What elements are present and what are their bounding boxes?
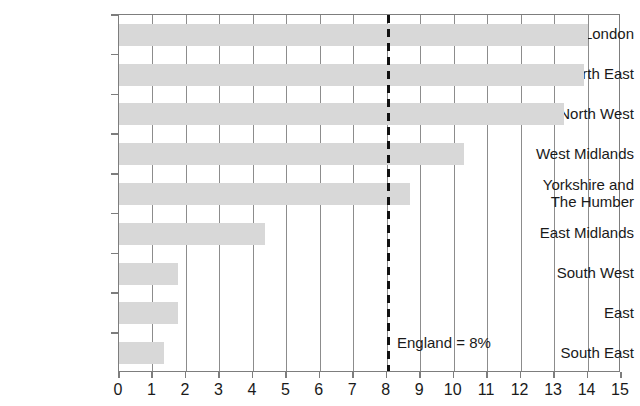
x-axis-label: 14 bbox=[572, 380, 602, 400]
bar bbox=[119, 24, 588, 46]
y-axis-tick bbox=[111, 253, 118, 255]
x-axis-label: 11 bbox=[471, 380, 501, 400]
category-label: East bbox=[522, 304, 640, 321]
y-axis-tick bbox=[111, 173, 118, 175]
bar bbox=[119, 342, 164, 364]
y-axis-tick bbox=[111, 292, 118, 294]
y-axis-tick bbox=[111, 332, 118, 334]
x-axis-tick bbox=[252, 372, 254, 378]
x-axis-tick bbox=[587, 372, 589, 378]
bar bbox=[119, 263, 178, 285]
y-axis-tick bbox=[111, 54, 118, 56]
x-axis-tick bbox=[419, 372, 421, 378]
x-axis-tick bbox=[520, 372, 522, 378]
x-axis-label: 8 bbox=[371, 380, 401, 400]
x-axis-tick bbox=[486, 372, 488, 378]
x-axis-label: 10 bbox=[438, 380, 468, 400]
x-axis-tick bbox=[620, 372, 622, 378]
y-axis-tick bbox=[111, 133, 118, 135]
bar bbox=[119, 64, 584, 86]
bar bbox=[119, 183, 410, 205]
x-axis-label: 9 bbox=[404, 380, 434, 400]
category-label: Yorkshire and The Humber bbox=[522, 176, 640, 210]
category-label: South West bbox=[522, 264, 640, 281]
x-axis-label: 5 bbox=[270, 380, 300, 400]
x-axis-tick bbox=[151, 372, 153, 378]
x-axis-tick bbox=[285, 372, 287, 378]
y-axis-tick bbox=[111, 14, 118, 16]
x-axis-label: 1 bbox=[136, 380, 166, 400]
x-axis-label: 4 bbox=[237, 380, 267, 400]
x-axis-label: 13 bbox=[538, 380, 568, 400]
x-axis-label: 6 bbox=[304, 380, 334, 400]
x-axis-label: 3 bbox=[203, 380, 233, 400]
y-axis-tick bbox=[111, 94, 118, 96]
y-axis-tick bbox=[111, 213, 118, 215]
category-label: East Midlands bbox=[522, 224, 640, 241]
x-axis-tick bbox=[453, 372, 455, 378]
bar bbox=[119, 143, 464, 165]
x-axis-label: 2 bbox=[170, 380, 200, 400]
x-axis-tick bbox=[118, 372, 120, 378]
x-axis-label: 0 bbox=[103, 380, 133, 400]
bar bbox=[119, 302, 178, 324]
england-reference-line bbox=[387, 15, 390, 371]
bar bbox=[119, 103, 564, 125]
bar bbox=[119, 223, 265, 245]
x-axis-label: 15 bbox=[605, 380, 635, 400]
x-axis-tick bbox=[185, 372, 187, 378]
category-label: South East bbox=[522, 344, 640, 361]
category-label: West Midlands bbox=[522, 145, 640, 162]
england-reference-label: England = 8% bbox=[397, 334, 491, 352]
x-axis-tick bbox=[553, 372, 555, 378]
x-axis-label: 12 bbox=[505, 380, 535, 400]
x-axis-tick bbox=[218, 372, 220, 378]
horizontal-bar-chart: England = 8% LondonNorth EastNorth WestW… bbox=[0, 0, 640, 406]
x-axis-tick bbox=[352, 372, 354, 378]
x-axis-tick bbox=[319, 372, 321, 378]
x-axis-tick bbox=[386, 372, 388, 378]
x-axis-label: 7 bbox=[337, 380, 367, 400]
